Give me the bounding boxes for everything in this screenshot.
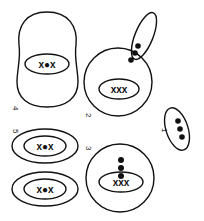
- figure-1-dot: [175, 118, 181, 124]
- figure-4-marks: x●x: [38, 59, 56, 70]
- figure-5-label: 5: [11, 129, 20, 134]
- figure-2-label: 2: [84, 113, 93, 118]
- figure-2-dot: [135, 43, 141, 49]
- figure-2-dot: [128, 57, 134, 63]
- figure-2-dot: [132, 50, 138, 56]
- figure-3-marks: xxx: [113, 177, 130, 188]
- figure-3-dot: [118, 165, 124, 171]
- figure-1-dot: [179, 134, 185, 140]
- figure-1-label: 1: [160, 128, 169, 133]
- figure-1-dot: [177, 126, 183, 132]
- figure-5a-marks: x●x: [36, 141, 54, 152]
- figure-2-marks: xxx: [111, 84, 128, 95]
- figure-3-dot: [118, 157, 124, 163]
- diagram-canvas: x●x xxx xxx x●x x●x 1 2 3 4 5: [0, 0, 204, 221]
- figure-2-lobe: [126, 9, 161, 62]
- figure-2-circle: [84, 48, 152, 116]
- figure-3-label: 3: [84, 146, 93, 151]
- figure-5b-marks: x●x: [36, 184, 54, 195]
- figure-4-label: 4: [11, 106, 20, 111]
- diagram-svg: x●x xxx xxx x●x x●x 1 2 3 4 5: [0, 0, 204, 221]
